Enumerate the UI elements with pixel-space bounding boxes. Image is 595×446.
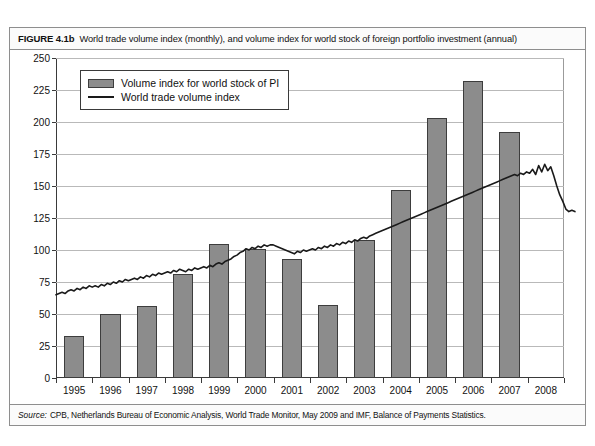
- y-axis-tick-label: 100: [33, 245, 50, 256]
- y-axis-tick-label: 150: [33, 181, 50, 192]
- x-axis-tick-mark: [201, 378, 202, 383]
- x-axis-tick-mark: [92, 378, 93, 383]
- x-axis-tick-label: 2005: [426, 385, 448, 396]
- figure-container: FIGURE 4.1b World trade volume index (mo…: [9, 27, 586, 426]
- x-axis-tick-label: 1999: [208, 385, 230, 396]
- y-axis-tick-label: 25: [39, 341, 50, 352]
- legend-item-line: World trade volume index: [88, 90, 279, 104]
- x-axis-tick-mark: [528, 378, 529, 383]
- x-axis-tick-mark: [383, 378, 384, 383]
- y-axis-tick-label: 0: [44, 373, 50, 384]
- x-axis-tick-label: 2003: [353, 385, 375, 396]
- x-axis-tick-label: 1995: [63, 385, 85, 396]
- y-axis-tick-label: 50: [39, 309, 50, 320]
- y-axis-tick-label: 75: [39, 277, 50, 288]
- chart-plot-area: 0255075100125150175200225250 19951996199…: [56, 58, 564, 378]
- x-axis-tick-mark: [129, 378, 130, 383]
- chart-legend: Volume index for world stock of PI World…: [80, 70, 289, 110]
- x-axis-tick-mark: [310, 378, 311, 383]
- x-axis-tick-mark: [346, 378, 347, 383]
- legend-item-bar: Volume index for world stock of PI: [88, 76, 279, 90]
- x-axis-tick-label: 2002: [317, 385, 339, 396]
- source-text: CPB, Netherlands Bureau of Economic Anal…: [50, 410, 486, 420]
- x-axis-tick-mark: [237, 378, 238, 383]
- legend-item-label: Volume index for world stock of PI: [121, 77, 279, 89]
- source-label: Source:: [18, 410, 47, 420]
- x-axis-tick-label: 2007: [498, 385, 520, 396]
- legend-line-swatch-icon: [88, 96, 114, 98]
- x-axis-tick-label: 2001: [281, 385, 303, 396]
- figure-number: FIGURE 4.1b: [18, 33, 74, 44]
- x-axis-tick-label: 2006: [462, 385, 484, 396]
- x-axis-tick-mark: [491, 378, 492, 383]
- x-axis-tick-label: 2004: [390, 385, 412, 396]
- y-axis-tick-label: 175: [33, 149, 50, 160]
- x-axis-tick-mark: [165, 378, 166, 383]
- figure-title-bar: FIGURE 4.1b World trade volume index (mo…: [10, 28, 585, 50]
- y-axis-tick-label: 250: [33, 53, 50, 64]
- x-axis-tick-mark: [274, 378, 275, 383]
- x-axis-tick-mark: [419, 378, 420, 383]
- x-axis-tick-label: 1997: [136, 385, 158, 396]
- legend-bar-swatch-icon: [88, 79, 114, 88]
- x-axis-tick-label: 2008: [535, 385, 557, 396]
- x-axis-tick-mark: [455, 378, 456, 383]
- legend-item-label: World trade volume index: [121, 91, 240, 103]
- x-axis-tick-label: 2000: [244, 385, 266, 396]
- y-axis-tick-label: 200: [33, 117, 50, 128]
- x-axis-tick-label: 1996: [99, 385, 121, 396]
- x-axis-tick-label: 1998: [172, 385, 194, 396]
- y-axis-tick-label: 125: [33, 213, 50, 224]
- y-axis-tick-label: 225: [33, 85, 50, 96]
- figure-source-bar: Source: CPB, Netherlands Bureau of Econo…: [10, 404, 585, 425]
- figure-title: World trade volume index (monthly), and …: [79, 34, 516, 44]
- x-axis-tick-mark: [564, 378, 565, 383]
- x-axis-tick-mark: [56, 378, 57, 383]
